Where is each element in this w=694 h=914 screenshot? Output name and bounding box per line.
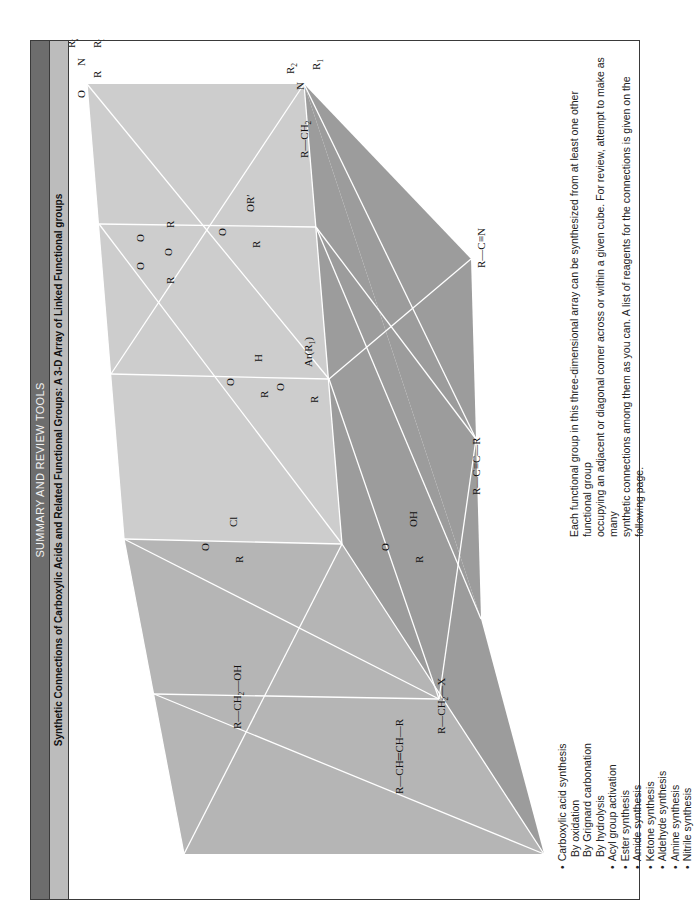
svg-text:OR′: OR′ bbox=[244, 194, 256, 212]
svg-text:R: R bbox=[164, 276, 176, 284]
svg-text:R: R bbox=[233, 555, 245, 563]
legend-item: Amine synthesis bbox=[669, 743, 682, 869]
svg-text:R1: R1 bbox=[310, 59, 325, 70]
figure-frame: SUMMARY AND REVIEW TOOLS Synthetic Conne… bbox=[30, 40, 640, 900]
legend-item: Acyl group activation bbox=[606, 743, 619, 869]
svg-text:O: O bbox=[199, 543, 211, 551]
legend-subitem: By hydrolysis bbox=[594, 743, 607, 869]
svg-text:OH: OH bbox=[407, 511, 419, 527]
svg-text:R—CH═CH—R: R—CH═CH—R bbox=[393, 718, 405, 794]
svg-text:O: O bbox=[162, 248, 174, 256]
svg-text:R: R bbox=[258, 390, 270, 398]
svg-text:O: O bbox=[274, 383, 286, 391]
figure-title: Synthetic Connections of Carboxylic Acid… bbox=[50, 41, 69, 899]
caption-line: occupying an adjacent or diagonal corner… bbox=[594, 47, 620, 537]
svg-text:N: N bbox=[75, 58, 87, 66]
svg-text:R—C≡N: R—C≡N bbox=[475, 228, 487, 268]
svg-text:N: N bbox=[294, 82, 306, 90]
svg-text:R2: R2 bbox=[284, 63, 299, 74]
svg-text:R: R bbox=[91, 70, 103, 78]
legend-item: Aldehyde synthesis bbox=[656, 743, 669, 869]
svg-text:O: O bbox=[134, 262, 146, 270]
svg-text:Cl: Cl bbox=[227, 517, 239, 527]
legend-item: Nitrile synthesis bbox=[681, 743, 694, 869]
node-alkyne: R—C≡C—R bbox=[470, 437, 482, 495]
node-nitrile: R—C≡N bbox=[475, 228, 487, 268]
svg-text:O: O bbox=[379, 543, 391, 551]
svg-text:R: R bbox=[164, 220, 176, 228]
legend-item: Ketone synthesis bbox=[644, 743, 657, 869]
svg-text:H: H bbox=[252, 354, 264, 362]
reaction-type-legend: Carboxylic acid synthesis By oxidation B… bbox=[556, 743, 694, 869]
svg-text:O: O bbox=[134, 234, 146, 242]
figure-caption: Each functional group in this three-dime… bbox=[568, 47, 646, 537]
legend-subitem: By Grignard carbonation bbox=[581, 743, 594, 869]
caption-line: Each functional group in this three-dime… bbox=[568, 47, 594, 537]
node-alkene: R—CH═CH—R bbox=[393, 718, 405, 794]
section-banner: SUMMARY AND REVIEW TOOLS bbox=[31, 41, 50, 899]
legend-item: Ester synthesis bbox=[619, 743, 632, 869]
svg-text:O: O bbox=[224, 378, 236, 386]
svg-text:R1: R1 bbox=[91, 39, 106, 48]
svg-text:O: O bbox=[75, 90, 87, 98]
svg-text:R: R bbox=[250, 240, 262, 248]
svg-text:R: R bbox=[308, 395, 320, 403]
svg-text:O: O bbox=[216, 228, 228, 236]
svg-text:R2: R2 bbox=[69, 39, 80, 48]
legend-item: Carboxylic acid synthesis bbox=[556, 743, 569, 869]
svg-text:R: R bbox=[413, 555, 425, 563]
legend-item: Amide synthesis bbox=[631, 743, 644, 869]
cube-diagram: O R N R2 R1 R—CH2 N R2 R1 OO ROR O bbox=[69, 39, 559, 899]
svg-text:R—C≡C—R: R—C≡C—R bbox=[470, 437, 482, 495]
caption-line: synthetic connections among them as you … bbox=[620, 47, 646, 537]
legend-subitem: By oxidation bbox=[569, 743, 582, 869]
rotated-page: SUMMARY AND REVIEW TOOLS Synthetic Conne… bbox=[30, 38, 642, 900]
